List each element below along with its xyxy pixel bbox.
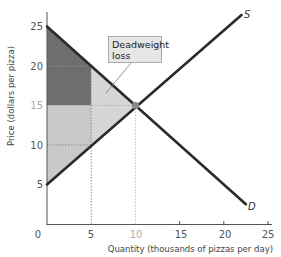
y-tick-label-5: 5	[37, 179, 43, 190]
dark-rectangle-region	[47, 66, 91, 106]
y-tick-label-20: 20	[30, 61, 43, 72]
y-tick-labels: 25 20 15 10 5	[30, 21, 43, 190]
origin-label: 0	[35, 229, 41, 240]
callout-text-line2: loss	[112, 50, 130, 61]
x-tick-label-20: 20	[219, 229, 232, 240]
y-tick-label-10: 10	[30, 140, 43, 151]
y-tick-label-25: 25	[30, 21, 43, 32]
callout-text-line1: Deadweight	[112, 39, 169, 50]
x-tick-label-10: 10	[130, 229, 143, 240]
x-tick-label-15: 15	[175, 229, 188, 240]
x-tick-labels: 0 5 10 15 20 25	[35, 229, 275, 240]
light-rectangle-region	[47, 106, 91, 146]
x-tick-label-5: 5	[88, 229, 94, 240]
demand-label: D	[248, 201, 256, 212]
equilibrium-point	[132, 102, 139, 109]
x-tick-label-25: 25	[262, 229, 275, 240]
x-axis-title: Quantity (thousands of pizzas per day)	[108, 244, 273, 254]
y-axis-title: Price (dollars per pizza)	[6, 46, 16, 146]
supply-demand-chart: Deadweight loss S D 25 20 15 10 5 0 5 10…	[0, 0, 281, 257]
supply-label: S	[244, 9, 251, 20]
callout-leader-line	[106, 63, 131, 93]
y-tick-label-15: 15	[30, 100, 43, 111]
